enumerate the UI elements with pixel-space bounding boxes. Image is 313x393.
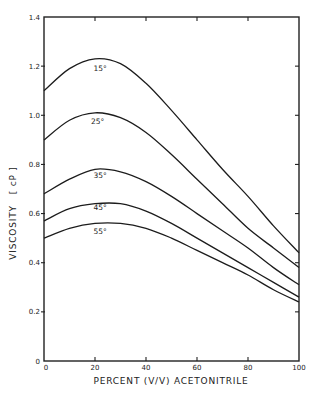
series-label: 25° [91, 117, 105, 126]
x-tick-label: 100 [292, 364, 305, 372]
y-tick-label: 1.4 [29, 14, 41, 22]
x-tick-label: 0 [44, 364, 48, 372]
series-label: 15° [93, 64, 107, 73]
y-tick-label: 1.0 [29, 112, 40, 120]
series-label: 45° [93, 203, 107, 212]
x-axis-title: PERCENT (V/V) ACETONITRILE [93, 376, 248, 386]
series-labels: 15°25°35°45°55° [91, 64, 107, 236]
plot-border [44, 17, 299, 361]
x-tick-label: 60 [193, 364, 202, 372]
plot-frame [44, 17, 299, 361]
series-label: 35° [93, 171, 107, 180]
series-label: 55° [93, 227, 107, 236]
y-axis-title: VISCOSITY [ cP ] [8, 166, 18, 259]
y-tick-label: 0.4 [29, 259, 41, 267]
y-tick-label: 0.6 [29, 210, 41, 218]
curves [44, 59, 299, 302]
y-tick-label: 1.2 [29, 63, 40, 71]
tick-labels: 02040608010000.20.40.60.81.01.21.4 [29, 14, 306, 373]
curve-35deg [44, 169, 299, 285]
curve-25deg [44, 113, 299, 268]
y-tick-label: 0.2 [29, 308, 40, 316]
curve-55deg [44, 223, 299, 302]
viscosity-chart: 02040608010000.20.40.60.81.01.21.4 15°25… [0, 0, 313, 393]
axis-ticks [41, 17, 299, 361]
x-tick-label: 40 [142, 364, 151, 372]
x-tick-label: 20 [91, 364, 100, 372]
x-tick-label: 80 [244, 364, 253, 372]
y-tick-label: 0.8 [29, 161, 40, 169]
y-tick-label: 0 [36, 358, 40, 366]
